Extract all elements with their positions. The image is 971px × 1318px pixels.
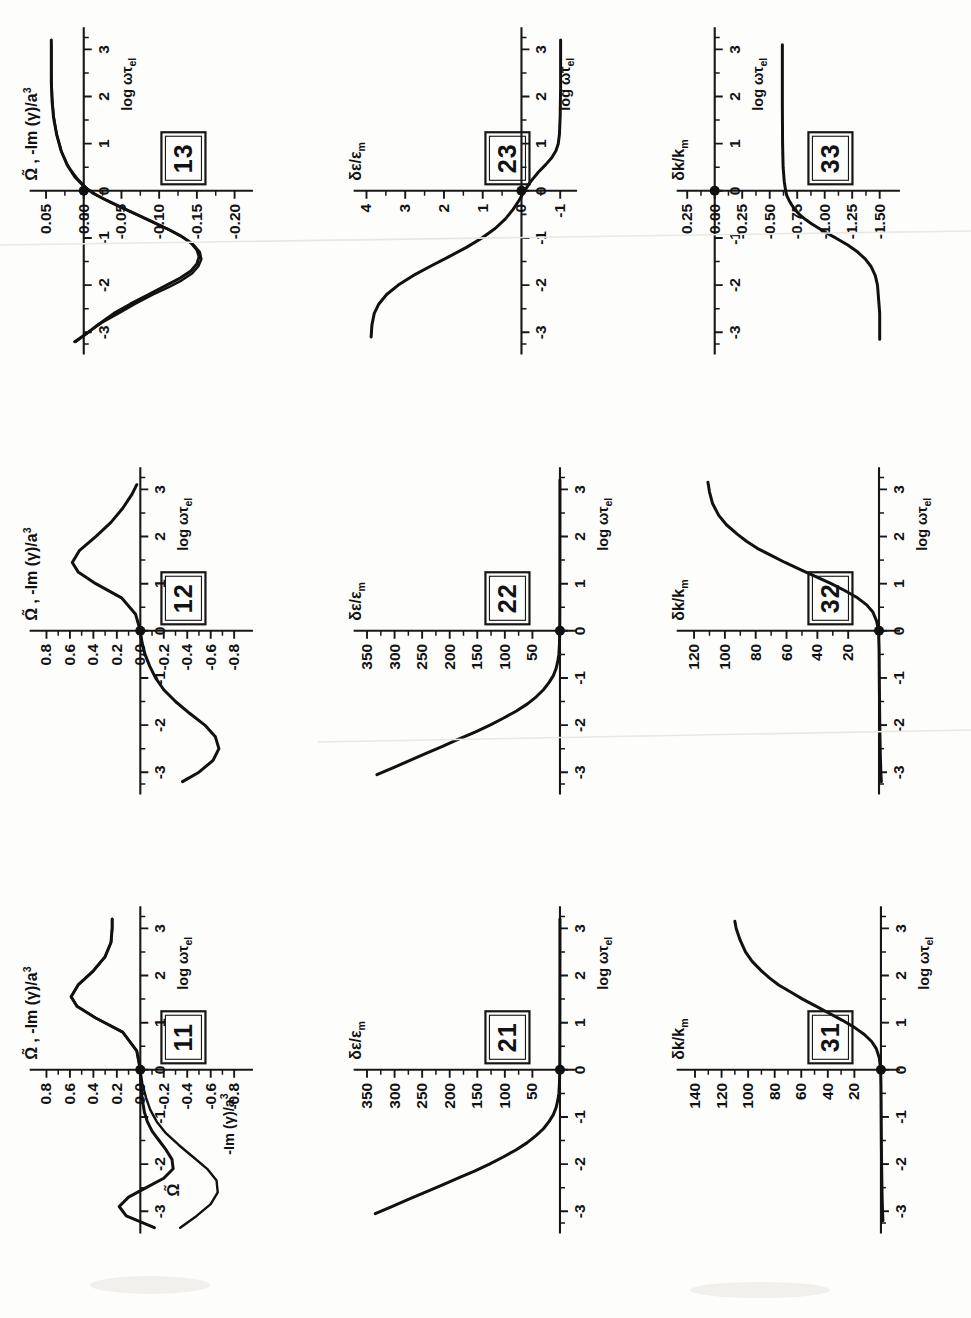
origin-marker bbox=[874, 625, 884, 635]
x-tick-label: 3 bbox=[570, 484, 587, 493]
y-tick-label: 1 bbox=[473, 203, 490, 212]
y-tick-label: 2 bbox=[434, 204, 451, 213]
y-tick-label: 80 bbox=[747, 643, 764, 660]
y-tick-label: 4 bbox=[357, 203, 374, 212]
y-tick-label: 100 bbox=[495, 643, 512, 669]
x-axis-label: log ωτel bbox=[556, 58, 575, 111]
x-tick-label: 0 bbox=[151, 1065, 168, 1074]
x-tick-label: -3 bbox=[570, 764, 587, 778]
curve-label-im-gamma: -Im (γ)/a3 bbox=[218, 1093, 237, 1155]
y-tick-label: 0.8 bbox=[37, 1082, 54, 1104]
x-tick-label: 1 bbox=[570, 1017, 587, 1026]
y-tick-label: 20 bbox=[839, 643, 856, 660]
plot-panel-23: -3-2-10123-101234log ωτelδε/εm23 bbox=[324, 0, 648, 439]
x-tick-label: 1 bbox=[570, 578, 587, 587]
y-axis-label: δε/εm bbox=[346, 581, 366, 620]
x-tick-label: 2 bbox=[570, 971, 587, 980]
x-tick-label: 2 bbox=[890, 531, 907, 540]
x-tick-label: -2 bbox=[532, 278, 549, 292]
plot-panel-33: -3-2-10123-1.50-1.25-1.00-0.75-0.50-0.25… bbox=[647, 0, 971, 439]
x-tick-label: 1 bbox=[892, 1017, 909, 1026]
y-tick-label: -0.2 bbox=[154, 1082, 171, 1109]
scanned-page: -3-2-10123-0.8-0.6-0.4-0.20.00.20.40.60.… bbox=[0, 0, 971, 1318]
x-tick-label: 0 bbox=[570, 626, 587, 635]
y-tick-label: 3 bbox=[395, 203, 412, 212]
x-tick-label: 3 bbox=[151, 484, 168, 493]
origin-marker bbox=[554, 625, 564, 635]
y-tick-label: 200 bbox=[440, 1082, 457, 1108]
y-tick-label: 250 bbox=[412, 643, 429, 669]
x-tick-label: -3 bbox=[570, 1203, 587, 1217]
y-axis-label: δk/km bbox=[670, 1018, 690, 1059]
x-tick-label: -3 bbox=[892, 1203, 909, 1217]
x-tick-label: 2 bbox=[151, 971, 168, 980]
y-tick-label: -0.4 bbox=[178, 1082, 195, 1109]
y-tick-label: 60 bbox=[777, 643, 794, 660]
x-tick-label: -2 bbox=[94, 278, 111, 292]
x-axis-label: log ωτel bbox=[118, 58, 137, 111]
y-tick-label: -0.75 bbox=[788, 203, 805, 239]
y-tick-label: 140 bbox=[686, 1082, 703, 1108]
panel-badge-label-13: 13 bbox=[169, 143, 197, 173]
panel-badge-label-12: 12 bbox=[169, 583, 197, 613]
y-axis-label: Ω̃ , -Im (γ)/a3 bbox=[20, 87, 39, 181]
y-axis-label: Ω̃ , -Im (γ)/a3 bbox=[20, 966, 39, 1060]
plot-panel-12: -3-2-10123-0.8-0.6-0.4-0.20.00.20.40.60.… bbox=[0, 439, 324, 878]
y-tick-label: 80 bbox=[766, 1082, 783, 1099]
origin-marker bbox=[78, 186, 88, 196]
plot-panel-31: -3-2-1012320406080100120140log ωτelδk/km… bbox=[647, 879, 971, 1318]
x-tick-label: -3 bbox=[151, 764, 168, 778]
y-axis-label: δε/εm bbox=[346, 1021, 366, 1060]
x-tick-label: -2 bbox=[570, 1157, 587, 1171]
x-tick-label: 3 bbox=[890, 484, 907, 493]
y-tick-label: 100 bbox=[495, 1082, 512, 1108]
panel-grid: -3-2-10123-0.8-0.6-0.4-0.20.00.20.40.60.… bbox=[0, 0, 971, 1318]
x-tick-label: 1 bbox=[890, 578, 907, 587]
y-tick-label: 200 bbox=[440, 643, 457, 669]
origin-marker bbox=[516, 186, 526, 196]
panel-badge-label-22: 22 bbox=[493, 583, 521, 613]
origin-marker bbox=[135, 1064, 145, 1074]
y-tick-label: -1.25 bbox=[843, 203, 860, 239]
y-tick-label: 0.25 bbox=[678, 203, 695, 234]
panel-badge-label-31: 31 bbox=[816, 1022, 844, 1052]
origin-marker bbox=[710, 186, 720, 196]
plot-panel-22: -3-2-1012350100150200250300350log ωτelδε… bbox=[324, 439, 648, 878]
x-axis-label: log ωτel bbox=[175, 936, 194, 989]
panel-badge-label-21: 21 bbox=[493, 1022, 521, 1052]
origin-marker bbox=[876, 1064, 886, 1074]
y-tick-label: 0.6 bbox=[60, 1082, 77, 1104]
curve-label-omega: Ω̃ bbox=[163, 1183, 182, 1196]
y-axis-label: δk/km bbox=[670, 139, 690, 180]
x-tick-label: 3 bbox=[151, 923, 168, 932]
x-tick-label: -1 bbox=[94, 231, 111, 245]
y-tick-label: -1 bbox=[550, 203, 567, 217]
x-tick-label: 2 bbox=[532, 92, 549, 101]
y-tick-label: -0.6 bbox=[201, 643, 218, 670]
y-tick-label: -0.2 bbox=[154, 643, 171, 670]
x-tick-label: 0 bbox=[570, 1065, 587, 1074]
origin-marker bbox=[554, 1064, 564, 1074]
y-tick-label: 50 bbox=[523, 1082, 540, 1099]
x-tick-label: -2 bbox=[892, 1157, 909, 1171]
y-tick-label: 300 bbox=[385, 1082, 402, 1108]
panel-badge-label-23: 23 bbox=[493, 143, 521, 173]
y-tick-label: 150 bbox=[467, 1082, 484, 1108]
plot-panel-21: -3-2-1012350100150200250300350log ωτelδε… bbox=[324, 879, 648, 1318]
x-axis-label: log ωτel bbox=[916, 936, 935, 989]
y-tick-label: 40 bbox=[819, 1082, 836, 1099]
y-tick-label: -0.15 bbox=[187, 203, 204, 239]
y-tick-label: 150 bbox=[467, 643, 484, 669]
x-tick-label: 3 bbox=[94, 45, 111, 54]
y-tick-label: 20 bbox=[845, 1082, 862, 1099]
y-tick-label: -0.4 bbox=[178, 643, 195, 670]
y-tick-label: 0.8 bbox=[37, 643, 54, 665]
y-axis-label: Ω̃ , -Im (γ)/a3 bbox=[20, 526, 39, 620]
y-tick-label: 120 bbox=[685, 643, 702, 669]
x-axis-label: log ωτel bbox=[594, 936, 613, 989]
x-tick-label: 3 bbox=[532, 45, 549, 54]
y-tick-label: 0.00 bbox=[706, 204, 723, 234]
x-tick-label: 0 bbox=[151, 626, 168, 635]
y-tick-label: -0.50 bbox=[761, 204, 778, 239]
data-curve-21-1 bbox=[374, 918, 559, 1213]
